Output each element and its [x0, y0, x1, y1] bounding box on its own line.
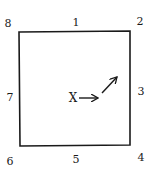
label-8: 8: [5, 17, 12, 30]
label-6: 6: [7, 155, 14, 168]
label-4: 4: [138, 151, 145, 164]
diagram: 8 1 2 3 4 5 6 7 X: [0, 0, 151, 171]
center-marker-x: X: [69, 91, 78, 105]
label-5: 5: [73, 153, 80, 166]
label-7: 7: [7, 91, 14, 104]
arrow-up-right-icon: [102, 77, 117, 93]
label-1: 1: [73, 16, 80, 29]
label-3: 3: [138, 85, 145, 98]
square-box: [19, 31, 130, 146]
label-2: 2: [137, 15, 144, 28]
